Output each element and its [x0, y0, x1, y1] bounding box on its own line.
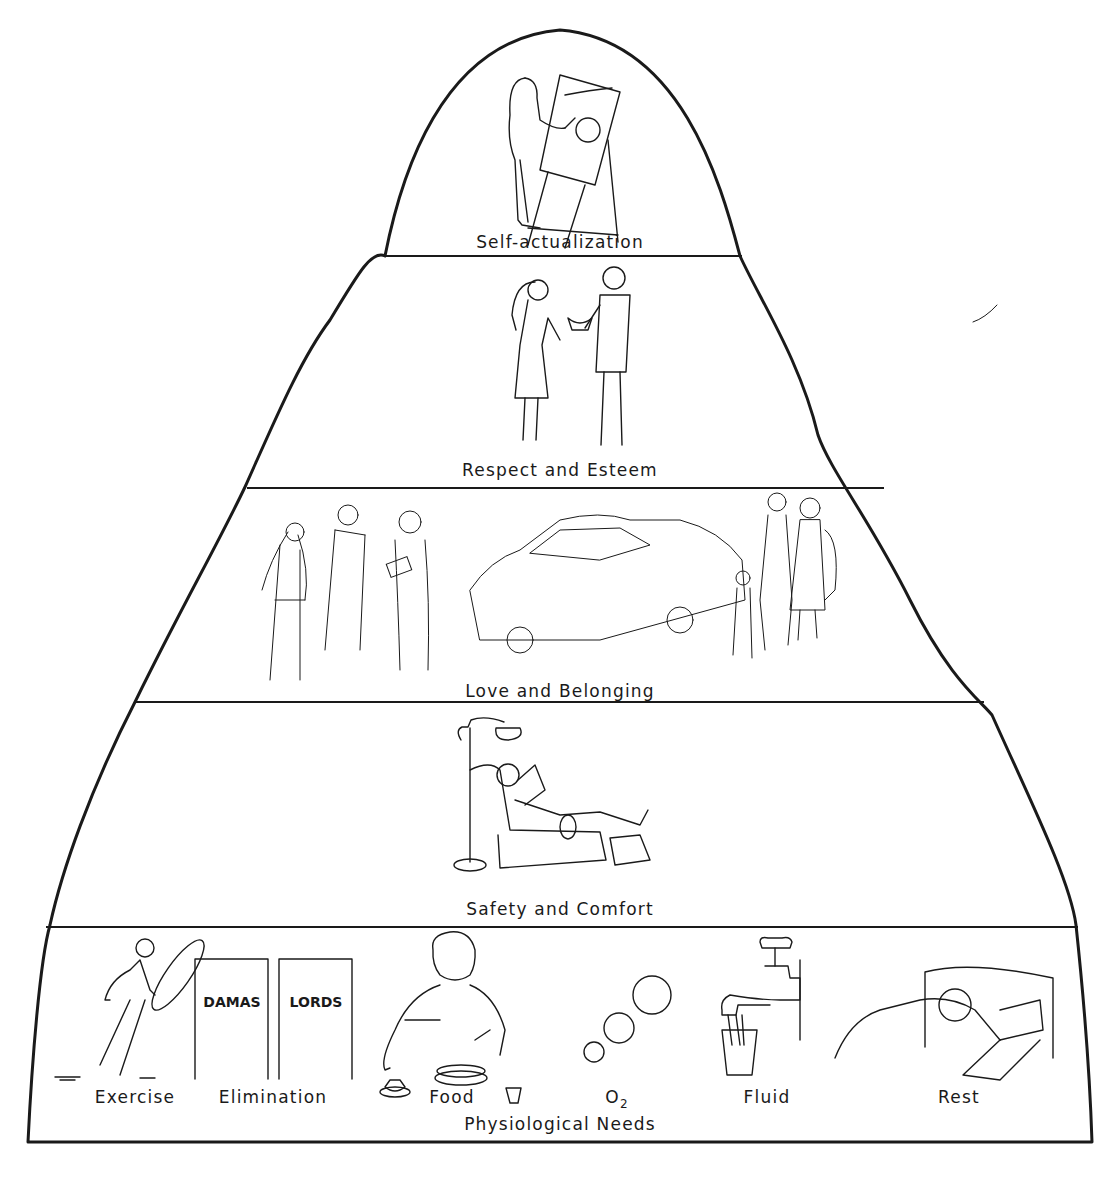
pyramid-outline	[28, 30, 1092, 1142]
stray-mark	[973, 305, 997, 322]
level-label-safety-and-comfort: Safety and Comfort	[466, 899, 654, 919]
physiological-label-fluid: Fluid	[744, 1087, 791, 1107]
needs-pyramid-diagram: Self-actualization Respect and Esteem	[0, 0, 1118, 1177]
restroom-sign-damas: DAMAS	[203, 994, 260, 1010]
level-label-self-actualization: Self-actualization	[476, 232, 644, 252]
restroom-sign-lords: LORDS	[290, 994, 343, 1010]
physiological-label-food: Food	[429, 1087, 475, 1107]
level-label-respect-and-esteem: Respect and Esteem	[462, 460, 658, 480]
level-label-physiological-needs: Physiological Needs	[464, 1114, 656, 1134]
physiological-label-elimination: Elimination	[219, 1087, 327, 1107]
level-label-love-and-belonging: Love and Belonging	[465, 681, 655, 701]
physiological-label-exercise: Exercise	[95, 1087, 175, 1107]
physiological-label-rest: Rest	[938, 1087, 980, 1107]
